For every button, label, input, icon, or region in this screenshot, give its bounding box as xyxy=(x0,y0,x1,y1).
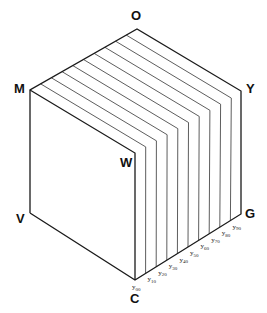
vertex-label-O: O xyxy=(131,8,141,23)
vertex-label-G: G xyxy=(245,206,255,221)
slice-label: y10 xyxy=(148,275,157,284)
vertex-label-C: C xyxy=(130,291,140,306)
slice-labels: y00y10y20y30y40y50y60y70y80y90 xyxy=(132,223,241,292)
slice-label: y30 xyxy=(169,262,178,271)
slice-label: y70 xyxy=(211,236,220,245)
slice-label: y80 xyxy=(222,229,231,238)
vertex-label-V: V xyxy=(16,211,25,226)
vertex-label-M: M xyxy=(14,81,25,96)
slice-label: y50 xyxy=(190,249,199,258)
vertex-label-W: W xyxy=(120,155,133,170)
slice-label: y60 xyxy=(201,242,210,251)
slice-label: y20 xyxy=(158,269,167,278)
slice-line xyxy=(105,47,210,234)
slice-label: y40 xyxy=(179,256,188,265)
slice-label: y90 xyxy=(232,223,241,232)
slice-line xyxy=(126,35,231,221)
vertex-label-Y: Y xyxy=(246,81,255,96)
cube-diagram: y00y10y20y30y40y50y60y70y80y90 O M Y W V… xyxy=(0,0,267,313)
